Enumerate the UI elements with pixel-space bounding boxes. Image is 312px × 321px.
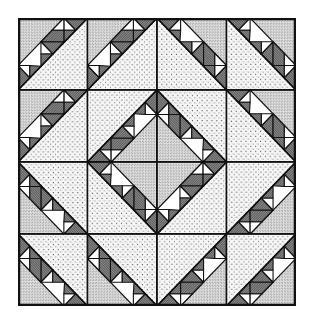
quilt-cell [227, 234, 297, 306]
quilt-cell [157, 90, 227, 162]
quilt-cell [157, 234, 227, 306]
quilt-cell [88, 162, 158, 234]
quilt-cell [157, 18, 227, 90]
quilt-cell [88, 90, 158, 162]
quilt-cell [88, 234, 158, 306]
quilt-cell [18, 162, 88, 234]
quilt-cell [227, 18, 297, 90]
quilt-block [18, 18, 296, 306]
quilt-cell [157, 162, 227, 234]
quilt-cell [18, 18, 88, 90]
quilt-cell [18, 90, 88, 162]
quilt-cell [88, 18, 158, 90]
quilt-cell [18, 234, 88, 306]
quilt-cell [227, 162, 297, 234]
cell-grid [18, 18, 296, 306]
quilt-cell [227, 90, 297, 162]
